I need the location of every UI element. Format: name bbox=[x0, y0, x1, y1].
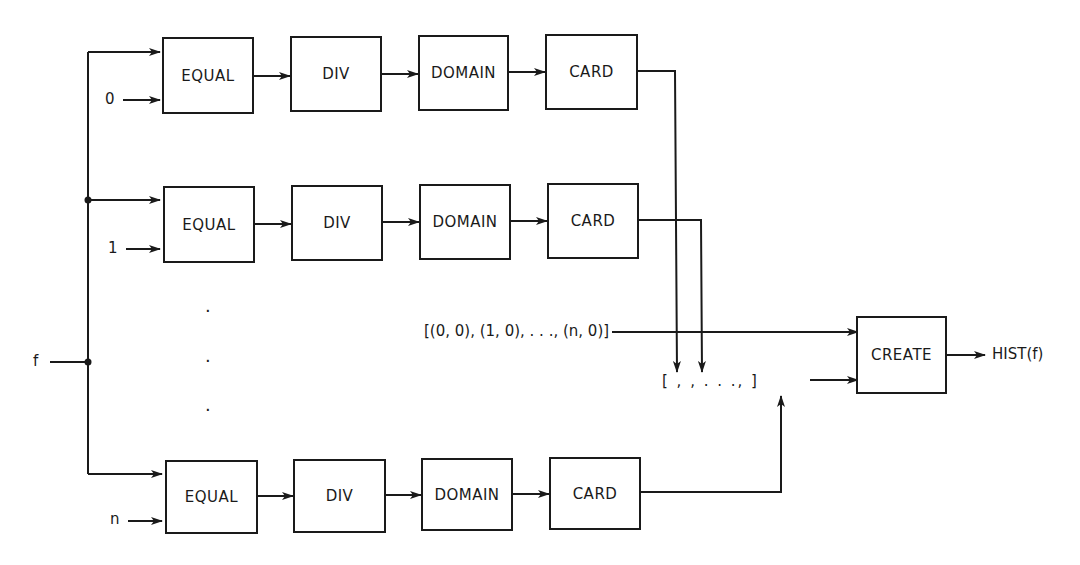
index-label-0: 0 bbox=[105, 90, 115, 108]
initial-list-label: [(0, 0), (1, 0), . . ., (n, 0)] bbox=[424, 322, 609, 340]
equal-block-row-0: EQUAL bbox=[162, 37, 254, 114]
ellipsis-dot: · bbox=[205, 350, 211, 371]
domain-block-row-1: DOMAIN bbox=[419, 184, 511, 260]
div-block-row-n: DIV bbox=[293, 459, 386, 533]
equal-block-row-n: EQUAL bbox=[165, 460, 258, 534]
div-block-row-0: DIV bbox=[290, 36, 382, 112]
card-block-row-1: CARD bbox=[547, 183, 639, 259]
equal-block-row-1: EQUAL bbox=[163, 186, 255, 263]
domain-block-row-0: DOMAIN bbox=[418, 35, 509, 111]
index-label-n: n bbox=[110, 510, 120, 528]
result-list-label: [ , , . . ., ] bbox=[662, 372, 759, 390]
domain-block-row-n: DOMAIN bbox=[421, 458, 513, 531]
ellipsis-dot: · bbox=[205, 399, 211, 420]
input-label-f: f bbox=[33, 352, 38, 370]
card-block-row-n: CARD bbox=[549, 457, 641, 530]
index-label-1: 1 bbox=[108, 239, 118, 257]
create-block: CREATE bbox=[856, 316, 947, 394]
card-block-row-0: CARD bbox=[545, 34, 638, 110]
div-block-row-1: DIV bbox=[291, 185, 383, 261]
output-label-hist: HIST(f) bbox=[992, 345, 1043, 363]
ellipsis-dot: · bbox=[205, 300, 211, 321]
